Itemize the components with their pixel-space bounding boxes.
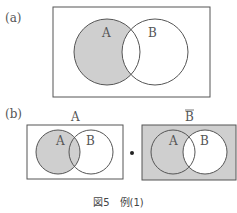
circle-b-label: B: [200, 134, 209, 148]
circle-b-label: B: [148, 26, 157, 40]
circle-a-label: A: [102, 26, 111, 40]
figure-caption: 図5 例(1): [0, 194, 237, 209]
panel-b-right-title: B: [185, 110, 194, 124]
intersection-operator-dot: [130, 151, 134, 155]
circle-b-label: B: [86, 134, 95, 148]
circle-a-label: A: [56, 134, 65, 148]
panel-b-right-diagram: [142, 125, 236, 180]
venn-diagrams: [0, 0, 237, 213]
panel-a-diagram: [53, 7, 210, 97]
circle-a-label: A: [169, 134, 178, 148]
panel-b-left-title: A: [71, 110, 80, 124]
panel-b-left-diagram: [27, 125, 123, 179]
